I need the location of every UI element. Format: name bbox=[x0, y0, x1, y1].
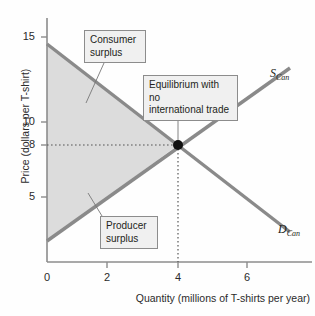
demand-label-main: D bbox=[278, 222, 287, 236]
demand-curve-label: DCan bbox=[278, 222, 300, 238]
demand-label-sub: Can bbox=[287, 229, 300, 238]
supply-label-sub: Can bbox=[276, 73, 289, 82]
y-tick-label-15: 15 bbox=[10, 31, 35, 42]
producer-surplus-callout: Producer surplus bbox=[100, 216, 158, 249]
chart-canvas bbox=[0, 0, 315, 316]
equilibrium-point-marker bbox=[173, 140, 183, 150]
y-axis-title: Price (dollars per T-shirt) bbox=[19, 51, 31, 201]
economics-supply-demand-figure: 15 10 8 5 0 2 4 6 Price (dollars per T-s… bbox=[0, 0, 315, 316]
x-tick-label-4: 4 bbox=[166, 272, 190, 283]
equilibrium-callout: Equilibrium with no international trade bbox=[143, 75, 238, 121]
x-tick-label-0: 0 bbox=[35, 272, 59, 283]
x-tick-label-2: 2 bbox=[95, 272, 119, 283]
supply-curve-label: SCan bbox=[270, 66, 289, 82]
x-tick-label-6: 6 bbox=[235, 272, 259, 283]
consumer-surplus-callout: Consumer surplus bbox=[84, 30, 146, 63]
x-axis-title: Quantity (millions of T-shirts per year) bbox=[0, 292, 310, 304]
